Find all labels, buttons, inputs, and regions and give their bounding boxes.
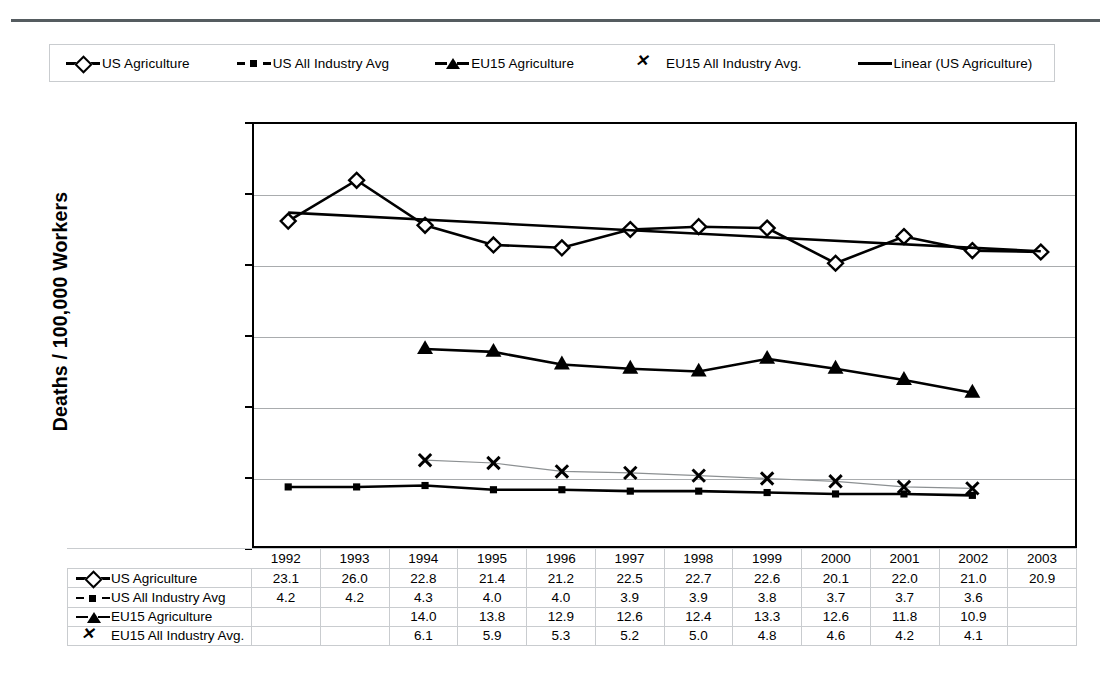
filled-square-marker-icon [76, 591, 110, 605]
filled-square-marker-icon [627, 488, 634, 495]
table-cell [252, 608, 321, 626]
table-cell: 4.2 [252, 588, 321, 606]
table-cell: 5.3 [527, 627, 596, 645]
filled-triangle-marker-icon [76, 610, 110, 624]
filled-triangle-marker-icon [435, 56, 469, 70]
table-cell: 22.7 [665, 569, 734, 587]
table-cell: 13.3 [733, 608, 802, 626]
filled-triangle-marker-icon [417, 340, 433, 354]
table-cell: 12.4 [665, 608, 734, 626]
filled-square-marker-icon [421, 482, 428, 489]
table-cell: 4.2 [321, 588, 390, 606]
table-cell: 21.2 [527, 569, 596, 587]
table-corner-cell [67, 549, 252, 568]
filled-square-marker-icon [764, 489, 771, 496]
y-axis-tick-mark [245, 335, 252, 337]
table-row-label-text: EU15 All Industry Avg. [111, 628, 244, 643]
open-diamond-marker-icon [760, 221, 775, 236]
table-row-label-text: US All Industry Avg [111, 590, 226, 605]
legend-item-eu15-all-industry-avg: ✕ EU15 All Industry Avg. [630, 56, 802, 71]
table-cell: 4.1 [940, 627, 1009, 645]
y-axis-tick-mark [245, 477, 252, 479]
y-axis-tick-mark [245, 193, 252, 195]
y-axis-tick-mark [245, 264, 252, 266]
open-diamond-marker-icon [76, 571, 110, 585]
table-cell: 5.2 [596, 627, 665, 645]
table-cell: 22.0 [871, 569, 940, 587]
table-column-header: 2003 [1008, 549, 1077, 568]
table-row-label-text: EU15 Agriculture [111, 609, 212, 624]
table-row-label-text: US Agriculture [111, 571, 197, 586]
table-cell: 21.4 [458, 569, 527, 587]
table-cell [1008, 608, 1077, 626]
series-eu15-agriculture [417, 340, 980, 397]
open-diamond-marker-icon [828, 256, 843, 271]
table-row-label: EU15 Agriculture [67, 608, 252, 626]
table-row: ✕EU15 All Industry Avg.6.15.95.35.25.04.… [67, 627, 1077, 646]
table-cell: 14.0 [390, 608, 459, 626]
open-diamond-marker-icon [486, 238, 501, 253]
table-cell: 4.8 [733, 627, 802, 645]
table-cell: 3.9 [596, 588, 665, 606]
filled-square-marker-icon [832, 490, 839, 497]
table-column-header: 1996 [527, 549, 596, 568]
open-diamond-marker-icon [349, 173, 364, 188]
table-cell: 22.6 [733, 569, 802, 587]
table-column-header: 2000 [802, 549, 871, 568]
filled-square-marker-icon [285, 483, 292, 490]
open-diamond-marker-icon [965, 243, 980, 258]
table-cell: 21.0 [940, 569, 1009, 587]
open-diamond-marker-icon [281, 214, 296, 229]
series-linear-us-agriculture- [288, 213, 1041, 252]
legend-label: US Agriculture [102, 56, 190, 71]
table-cell [1008, 588, 1077, 606]
legend-label: EU15 Agriculture [471, 56, 574, 71]
series-us-agriculture [281, 173, 1049, 271]
y-axis-tick-mark [245, 122, 252, 124]
filled-square-marker-icon [558, 486, 565, 493]
table-column-header: 2002 [940, 549, 1009, 568]
table-cell: 26.0 [321, 569, 390, 587]
table-row-label: ✕EU15 All Industry Avg. [67, 627, 252, 645]
legend-item-us-agriculture: US Agriculture [66, 56, 190, 71]
data-table: 1992199319941995199619971998199920002001… [67, 548, 1077, 646]
table-column-header: 1999 [733, 549, 802, 568]
table-cell: 11.8 [871, 608, 940, 626]
table-cell: 3.9 [665, 588, 734, 606]
open-diamond-marker-icon [554, 240, 569, 255]
table-column-header: 1997 [596, 549, 665, 568]
open-diamond-marker-icon [896, 229, 911, 244]
trendline-marker-icon [858, 56, 892, 70]
open-diamond-marker-icon [691, 219, 706, 234]
table-cell: 3.7 [802, 588, 871, 606]
y-axis-tick-mark [245, 406, 252, 408]
table-row: US All Industry Avg4.24.24.34.04.03.93.9… [67, 588, 1077, 607]
table-cell: 20.9 [1008, 569, 1077, 587]
trendline [288, 213, 1041, 252]
table-cell [321, 608, 390, 626]
x-marker-icon: ✕ [76, 629, 110, 643]
filled-square-marker-icon [353, 483, 360, 490]
table-cell: 13.8 [458, 608, 527, 626]
table-cell: 12.6 [596, 608, 665, 626]
table-column-header: 1998 [665, 549, 734, 568]
legend-item-linear-trendline: Linear (US Agriculture) [858, 56, 1033, 71]
legend-label: US All Industry Avg [273, 56, 389, 71]
table-cell: 4.2 [871, 627, 940, 645]
table-cell: 5.9 [458, 627, 527, 645]
table-column-header: 2001 [871, 549, 940, 568]
series-line [288, 180, 1041, 263]
table-cell: 4.0 [527, 588, 596, 606]
table-row: EU15 Agriculture14.013.812.912.612.413.3… [67, 608, 1077, 627]
table-cell: 3.7 [871, 588, 940, 606]
table-column-header: 1993 [321, 549, 390, 568]
table-column-header: 1994 [390, 549, 459, 568]
table-row-label: US Agriculture [67, 569, 252, 587]
table-cell: 4.3 [390, 588, 459, 606]
table-cell: 22.5 [596, 569, 665, 587]
filled-square-marker-icon [695, 488, 702, 495]
table-cell: 12.9 [527, 608, 596, 626]
table-cell: 5.0 [665, 627, 734, 645]
table-cell: 3.8 [733, 588, 802, 606]
table-cell: 4.6 [802, 627, 871, 645]
